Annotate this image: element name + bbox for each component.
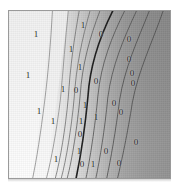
contour-label: 1 <box>91 160 96 169</box>
contour-label: 1 <box>78 63 83 72</box>
contour-label: 0 <box>80 160 85 169</box>
contour-label: 1 <box>69 45 74 54</box>
contour-label: 0 <box>127 35 132 44</box>
contour-label: 0 <box>134 138 139 147</box>
contour-label: 1 <box>79 117 84 126</box>
contour-label: 0 <box>112 99 117 108</box>
contour-label: 1 <box>81 21 86 30</box>
contour-label: 0 <box>78 130 83 139</box>
contour-label: 1 <box>94 113 99 122</box>
contour-label: 1 <box>83 101 88 110</box>
contour-label: 0 <box>99 30 104 39</box>
plot-frame: 1110011000100110011100101010 <box>8 10 171 179</box>
contour-label: 1 <box>26 71 31 80</box>
contour-label: 1 <box>77 147 82 156</box>
contour-label: 0 <box>104 147 109 156</box>
contour-plot-figure: 1110011000100110011100101010 <box>0 0 180 190</box>
contour-label: 0 <box>127 55 132 64</box>
contour-label: 1 <box>37 107 42 116</box>
contour-label: 0 <box>74 86 79 95</box>
contour-label: 1 <box>51 117 56 126</box>
contour-line <box>55 11 79 178</box>
contour-label: 1 <box>34 30 39 39</box>
contour-label: 1 <box>61 85 66 94</box>
page-edge-shadow <box>8 179 171 182</box>
contour-label: 0 <box>130 69 135 78</box>
contour-label: 1 <box>54 155 59 164</box>
contour-line <box>118 11 163 178</box>
contour-label: 0 <box>131 79 136 88</box>
contour-label: 0 <box>117 159 122 168</box>
contour-label: 0 <box>119 108 124 117</box>
contour-label: 0 <box>94 77 99 86</box>
